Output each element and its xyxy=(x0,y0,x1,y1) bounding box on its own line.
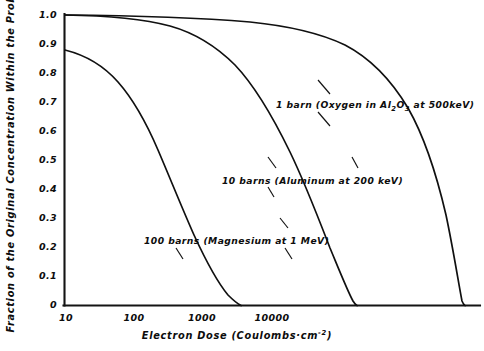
figure-container: 1.0 0.9 0.8 0.7 0.6 0.5 0.4 0.3 0.2 0.1 … xyxy=(0,0,484,351)
y-tick-label-0.3: 0.3 xyxy=(39,212,57,223)
curve-label-1-barn: 1 barn (Oxygen in Al2O3 at 500keV) xyxy=(276,99,474,113)
leader-line-100-barns-lower-right xyxy=(285,248,292,259)
curve-label-10-barns: 10 barns (Aluminum at 200 keV) xyxy=(222,175,403,186)
leader-line-10-barns-upper xyxy=(268,157,276,168)
y-tick-label-0.6: 0.6 xyxy=(39,125,57,136)
leader-line-100-barns-lower-left xyxy=(176,248,183,259)
chart-plot: 1.0 0.9 0.8 0.7 0.6 0.5 0.4 0.3 0.2 0.1 … xyxy=(0,0,484,351)
x-tick-label-1000: 1000 xyxy=(188,312,216,323)
y-tick-label-1.0: 1.0 xyxy=(39,9,57,20)
y-axis-title: Fraction of the Original Concentration W… xyxy=(5,0,16,332)
leader-line-10-barns-right xyxy=(352,157,358,168)
x-axis-title-main: Electron Dose (Coulombs·cm xyxy=(142,330,318,341)
curve-100-barns xyxy=(65,50,241,306)
x-axis-title-close: ) xyxy=(326,330,332,341)
leader-line-1-barn-upper xyxy=(318,80,330,94)
y-tick-label-0.4: 0.4 xyxy=(39,183,57,194)
y-tick-label-0.1: 0.1 xyxy=(39,270,57,281)
x-axis-title-exponent: -2 xyxy=(318,329,327,337)
x-tick-label-100: 100 xyxy=(123,312,144,323)
x-axis-title: Electron Dose (Coulombs·cm-2) xyxy=(142,329,332,341)
x-tick-label-10: 10 xyxy=(59,312,73,323)
x-tick-label-10000: 10000 xyxy=(254,312,289,323)
curve-label-100-barns: 100 barns (Magnesium at 1 MeV) xyxy=(144,235,329,246)
y-tick-label-0.7: 0.7 xyxy=(39,96,57,107)
y-tick-label-0.2: 0.2 xyxy=(39,241,57,252)
y-tick-label-0: 0 xyxy=(50,299,57,310)
y-tick-label-0.9: 0.9 xyxy=(39,38,57,49)
leader-line-100-barns-upper xyxy=(280,218,288,228)
y-tick-label-0.8: 0.8 xyxy=(39,67,57,78)
leader-line-1-barn-lower xyxy=(318,112,330,126)
leader-line-10-barns-lower xyxy=(268,187,274,197)
curve-10-barns xyxy=(65,15,357,306)
curve-label-1-barn-main: 1 barn (Oxygen in Al xyxy=(276,99,392,110)
curve-label-1-barn-end: at 500keV) xyxy=(410,99,474,110)
curve-1-barn xyxy=(65,15,465,306)
curve-label-1-barn-mid: O xyxy=(396,99,404,110)
y-tick-label-0.5: 0.5 xyxy=(39,154,57,165)
